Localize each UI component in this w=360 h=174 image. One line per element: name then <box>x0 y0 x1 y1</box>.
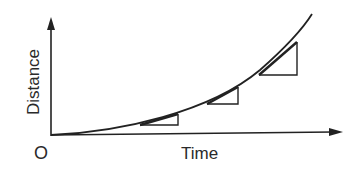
tangent-2 <box>207 87 238 104</box>
x-axis-arrow-icon <box>329 128 343 136</box>
origin-label: O <box>34 144 48 162</box>
y-axis-arrow-icon <box>47 17 55 30</box>
x-axis-label: Time <box>181 145 218 162</box>
y-axis-label: Distance <box>25 49 42 115</box>
x-axis <box>51 132 333 135</box>
tangent-3 <box>259 42 297 75</box>
distance-time-diagram <box>0 0 360 174</box>
tangent-1 <box>140 114 178 125</box>
